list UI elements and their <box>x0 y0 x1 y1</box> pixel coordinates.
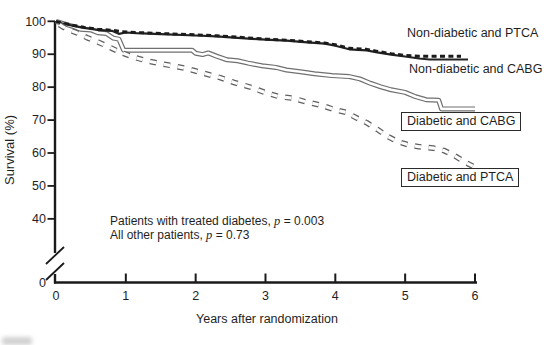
x-tick-label: 3 <box>262 289 269 303</box>
x-tick-label: 1 <box>122 289 129 303</box>
annotation-value: = 0.003 <box>280 214 324 228</box>
x-tick-label: 5 <box>402 289 409 303</box>
annotation-value: = 0.73 <box>212 228 249 242</box>
y-tick-label: 70 <box>32 113 46 127</box>
y-tick-label: 100 <box>25 15 46 29</box>
curve-label-nondiabetic-ptca: Non-diabetic and PTCA <box>407 26 538 40</box>
curve-label-nondiabetic-cabg: Non-diabetic and CABG <box>409 62 542 76</box>
y-tick-label: 50 <box>32 179 46 193</box>
curve-label-diabetic-ptca: Diabetic and PTCA <box>401 168 519 187</box>
figure-caption-fragment <box>2 337 32 345</box>
y-axis-title: Survival (%) <box>2 115 17 185</box>
y-tick-label: 80 <box>32 80 46 94</box>
y-tick-label: 40 <box>32 212 46 226</box>
y-tick-label: 90 <box>32 47 46 61</box>
y-tick-label: 60 <box>32 146 46 160</box>
annotation-text: Patients with treated diabetes, <box>110 214 274 228</box>
x-tick-label: 2 <box>192 289 199 303</box>
curve-label-diabetic-cabg: Diabetic and CABG <box>401 112 521 131</box>
x-axis-title: Years after randomization <box>196 312 338 326</box>
annotation-others-pvalue: All other patients, p = 0.73 <box>110 229 249 243</box>
x-tick-label: 4 <box>332 289 339 303</box>
annotation-diabetes-pvalue: Patients with treated diabetes, p = 0.00… <box>110 215 324 229</box>
x-tick-label: 0 <box>53 289 60 303</box>
y-origin-label: 0 <box>39 276 46 290</box>
x-tick-label: 6 <box>472 289 479 303</box>
annotation-text: All other patients, <box>110 228 206 242</box>
